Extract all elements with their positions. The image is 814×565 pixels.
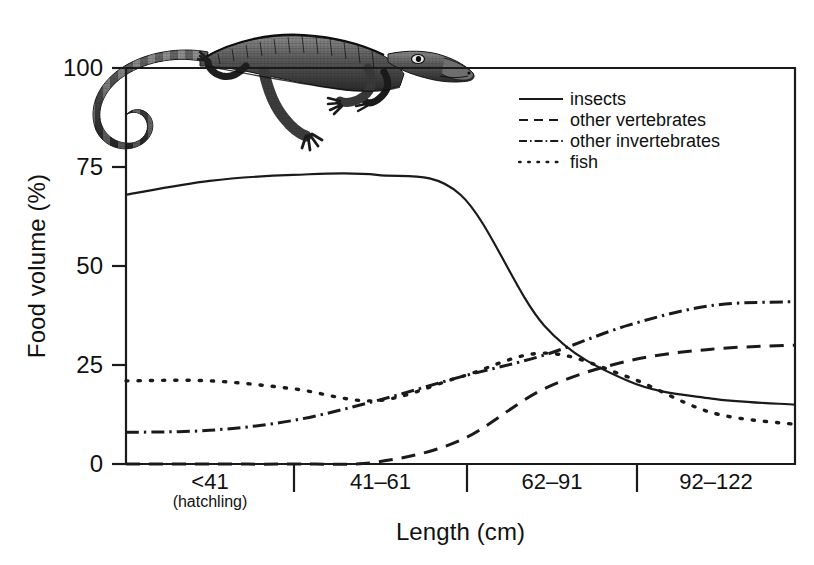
data-curves bbox=[126, 173, 795, 464]
series-line-fish bbox=[126, 353, 795, 424]
plot-area bbox=[0, 0, 814, 565]
series-line-insects bbox=[126, 173, 795, 404]
series-line-other-vertebrates bbox=[126, 345, 795, 464]
axis-frame bbox=[126, 68, 795, 464]
series-line-other-invertebrates bbox=[126, 302, 795, 433]
x-axis-ticks bbox=[294, 464, 637, 492]
food-volume-chart: Food volume (%) 100 75 50 25 0 <41 (hatc… bbox=[0, 0, 814, 565]
y-axis-ticks bbox=[112, 68, 126, 464]
